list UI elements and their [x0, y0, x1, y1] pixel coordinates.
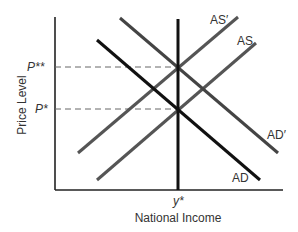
as-prime-curve [78, 17, 238, 153]
x-axis-title: National Income [135, 211, 222, 225]
as-label: AS [237, 34, 253, 48]
ad-as-diagram: AS′ AS AD′ AD P** P* y* National Income … [0, 0, 298, 232]
ad-prime-label: AD′ [267, 128, 287, 142]
ad-prime-curve [120, 18, 278, 153]
p-double-star-label: P** [27, 60, 45, 74]
as-prime-label: AS′ [210, 13, 229, 27]
y-star-label: y* [172, 194, 184, 208]
ad-label: AD [232, 171, 249, 185]
y-axis-title: Price Level [15, 75, 29, 134]
p-star-label: P* [35, 102, 48, 116]
